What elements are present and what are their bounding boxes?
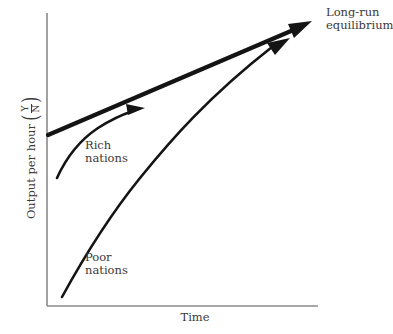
rich-nations-arrowhead bbox=[126, 104, 145, 115]
long-run-equilibrium-arrowhead bbox=[288, 21, 312, 38]
annotation-poor-nations-line1: Poor bbox=[85, 251, 128, 264]
y-axis-label-fraction: Y N bbox=[21, 104, 41, 114]
annotation-long-run-equilibrium: Long-run equilibrium bbox=[326, 6, 393, 32]
annotation-rich-nations-line2: nations bbox=[85, 152, 128, 165]
y-axis-label-paren-close: ) bbox=[20, 96, 42, 102]
annotation-rich-nations: Rich nations bbox=[85, 139, 128, 165]
annotation-poor-nations-line2: nations bbox=[85, 264, 128, 277]
annotation-poor-nations: Poor nations bbox=[85, 251, 128, 277]
annotation-long-run-equilibrium-line2: equilibrium bbox=[326, 19, 393, 32]
long-run-equilibrium-line bbox=[48, 28, 298, 135]
y-axis-label-paren-open: ( bbox=[20, 115, 42, 121]
y-axis-label: Output per hour ( Y N ) bbox=[16, 52, 46, 262]
y-axis-label-text: Output per hour bbox=[24, 124, 38, 219]
annotation-rich-nations-line1: Rich bbox=[85, 139, 128, 152]
fraction-denominator: N bbox=[32, 104, 41, 114]
series-long-run-equilibrium bbox=[48, 21, 312, 135]
fraction-numerator: Y bbox=[21, 105, 30, 113]
annotation-long-run-equilibrium-line1: Long-run bbox=[326, 6, 393, 19]
x-axis-label: Time bbox=[0, 311, 390, 324]
